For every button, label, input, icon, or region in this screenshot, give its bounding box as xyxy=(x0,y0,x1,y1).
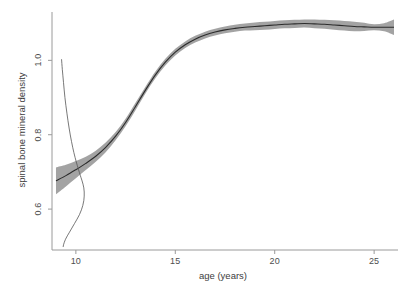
chart-figure: 101520250.60.81.0 age (years) spinal bon… xyxy=(0,0,406,294)
y-axis-ticks xyxy=(48,60,52,209)
x-tick-label: 25 xyxy=(369,256,379,266)
fitted-spline-line xyxy=(56,24,394,181)
y-tick-label: 0.8 xyxy=(33,128,43,141)
confidence-band xyxy=(56,19,394,194)
y-tick-label: 0.6 xyxy=(33,203,43,216)
x-axis-title: age (years) xyxy=(199,270,247,281)
x-tick-label: 15 xyxy=(170,256,180,266)
axis-group xyxy=(48,12,398,254)
marginal-density-curve xyxy=(62,59,85,247)
confidence-band-group xyxy=(56,19,394,194)
y-axis-title: spinal bone mineral density xyxy=(16,72,27,187)
density-curve-group xyxy=(62,59,85,247)
x-axis-ticks xyxy=(76,250,374,254)
x-tick-label: 20 xyxy=(269,256,279,266)
fitted-line-group xyxy=(56,24,394,181)
y-tick-label: 1.0 xyxy=(33,54,43,67)
chart-plot-area xyxy=(0,0,406,294)
x-tick-label: 10 xyxy=(71,256,81,266)
